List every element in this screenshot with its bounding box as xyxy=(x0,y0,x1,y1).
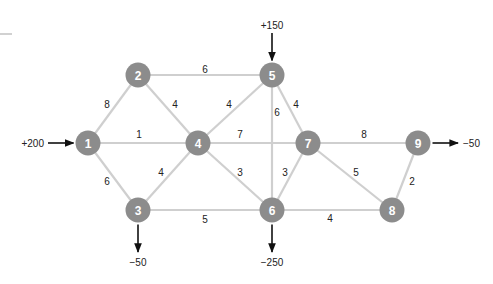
node-label: 7 xyxy=(305,137,312,151)
node-label: 3 xyxy=(135,204,142,218)
flow-value-node-1: +200 xyxy=(21,138,44,149)
edge-4-6 xyxy=(198,143,272,210)
node-5: 5 xyxy=(260,63,285,88)
node-8: 8 xyxy=(380,198,405,223)
node-3: 3 xyxy=(126,198,151,223)
node-label: 9 xyxy=(415,137,422,151)
node-7: 7 xyxy=(296,131,321,156)
node-9: 9 xyxy=(406,131,431,156)
node-label: 6 xyxy=(269,204,276,218)
edge-weight-4-7: 7 xyxy=(237,129,243,140)
edge-weight-5-7: 4 xyxy=(293,99,299,110)
node-6: 6 xyxy=(260,198,285,223)
node-2: 2 xyxy=(126,63,151,88)
edge-weight-1-3: 6 xyxy=(104,176,110,187)
edge-weight-8-9: 2 xyxy=(409,176,415,187)
flow-value-node-9: −50 xyxy=(463,138,480,149)
edge-weight-3-6: 5 xyxy=(202,214,208,225)
node-label: 8 xyxy=(389,204,396,218)
edge-weight-1-2: 8 xyxy=(104,99,110,110)
edge-weight-7-8: 5 xyxy=(353,167,359,178)
edge-4-5 xyxy=(198,75,272,143)
edge-7-8 xyxy=(308,143,392,210)
edge-weight-6-7: 3 xyxy=(282,167,288,178)
node-label: 1 xyxy=(85,137,92,151)
edge-weight-4-5: 4 xyxy=(226,99,232,110)
network-diagram: 81664454736434852 +200+150−50−250−50 123… xyxy=(0,0,493,284)
edge-3-4 xyxy=(138,143,198,210)
edge-weight-7-9: 8 xyxy=(361,129,367,140)
edge-weight-3-4: 4 xyxy=(158,167,164,178)
edge-1-2 xyxy=(88,75,138,143)
node-label: 2 xyxy=(135,69,142,83)
edge-2-4 xyxy=(138,75,198,143)
edge-weight-2-5: 6 xyxy=(202,64,208,75)
edges-layer xyxy=(88,75,418,210)
flow-value-node-6: −250 xyxy=(261,257,284,268)
edge-weight-2-4: 4 xyxy=(172,99,178,110)
node-label: 5 xyxy=(269,69,276,83)
flow-value-node-5: +150 xyxy=(261,20,284,31)
flow-value-node-3: −50 xyxy=(130,257,147,268)
edge-weight-1-4: 1 xyxy=(136,129,142,140)
edge-1-3 xyxy=(88,143,138,210)
edge-weight-6-8: 4 xyxy=(327,213,333,224)
node-4: 4 xyxy=(186,131,211,156)
edge-weight-4-6: 3 xyxy=(237,167,243,178)
node-1: 1 xyxy=(76,131,101,156)
node-label: 4 xyxy=(195,137,202,151)
edge-weight-5-6: 6 xyxy=(274,107,280,118)
